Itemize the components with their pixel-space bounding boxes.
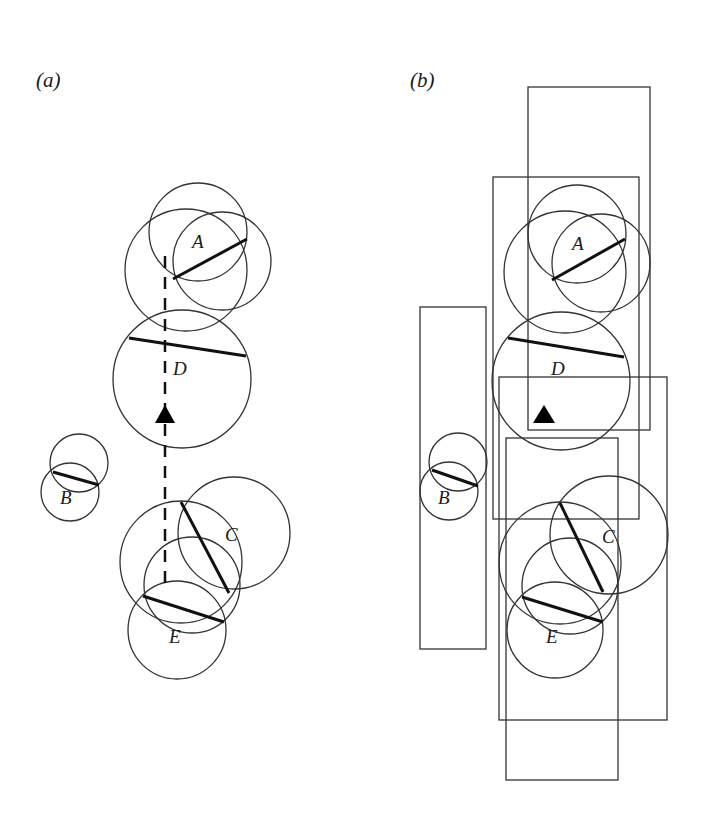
node-label-a: A	[190, 231, 204, 252]
boundary-a-b	[552, 239, 625, 280]
boundary-e	[143, 596, 224, 622]
node-label-b: B	[60, 487, 72, 508]
circle-a-lower-b	[552, 214, 650, 312]
circle-ce	[120, 501, 242, 623]
figure-canvas: (a) A	[0, 0, 702, 813]
panel-a-label: (a)	[36, 68, 61, 92]
panel-a: (a) A	[36, 68, 290, 679]
node-label-d-b: D	[550, 358, 565, 379]
panel-b-label: (b)	[410, 68, 435, 92]
circle-a-lower	[173, 212, 271, 310]
node-label-e: E	[168, 626, 181, 647]
boundary-d	[129, 338, 246, 356]
triangle-marker-b	[533, 405, 555, 423]
node-label-b-b: B	[438, 487, 450, 508]
triangle-marker-a	[155, 405, 175, 423]
node-label-d: D	[172, 358, 187, 379]
node-label-c: C	[225, 524, 238, 545]
circle-b-upper-b	[429, 433, 487, 491]
node-label-c-b: C	[602, 526, 615, 547]
circle-ce-b	[499, 502, 621, 624]
boundary-c-b	[560, 503, 603, 592]
node-label-a-b: A	[570, 233, 584, 254]
boundary-a	[173, 239, 247, 279]
node-label-e-b: E	[545, 626, 558, 647]
panel-b: (b) A D	[410, 68, 668, 780]
panel-a-boundaries	[53, 239, 247, 622]
circle-b-upper	[50, 434, 108, 492]
boundary-d-b	[508, 338, 624, 357]
